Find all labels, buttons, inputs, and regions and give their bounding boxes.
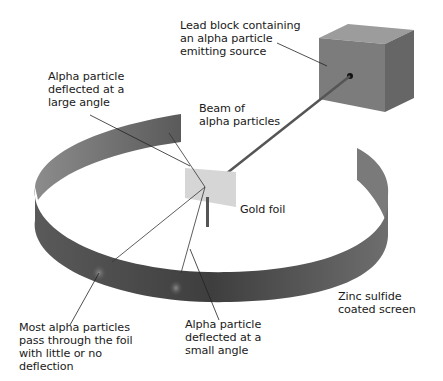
label-lead-block: Lead block containing an alpha particle … xyxy=(180,19,300,58)
label-small-angle: Alpha particle deflected at a small angl… xyxy=(185,318,261,357)
flash-small xyxy=(169,280,183,296)
block-side xyxy=(385,30,414,112)
screen-back-right xyxy=(357,148,388,230)
label-large-angle: Alpha particle deflected at a large angl… xyxy=(48,70,124,109)
foil-stand xyxy=(206,197,209,227)
label-most-pass: Most alpha particles pass through the fo… xyxy=(19,321,133,373)
label-zinc-screen: Zinc sulfide coated screen xyxy=(338,290,416,316)
screen-back-left xyxy=(35,114,181,200)
label-gold-foil: Gold foil xyxy=(240,203,285,216)
screen-front xyxy=(35,187,388,302)
gold-foil-plate xyxy=(185,168,236,207)
label-beam: Beam of alpha particles xyxy=(199,102,280,128)
